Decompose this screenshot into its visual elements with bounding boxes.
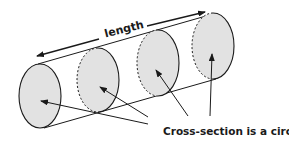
cylinder-diagram: length Cross-section is a circle <box>0 0 289 142</box>
cross-section-2 <box>77 48 119 112</box>
pointer-arrows <box>41 54 212 124</box>
length-dimension: length <box>37 12 205 56</box>
cross-section-4 <box>192 13 234 79</box>
cylinder-bottom-edge <box>44 79 216 128</box>
cross-section-label: Cross-section is a circle <box>163 125 289 137</box>
length-label: length <box>103 18 145 40</box>
cross-section-1 <box>19 64 61 128</box>
cross-section-3 <box>137 30 179 96</box>
